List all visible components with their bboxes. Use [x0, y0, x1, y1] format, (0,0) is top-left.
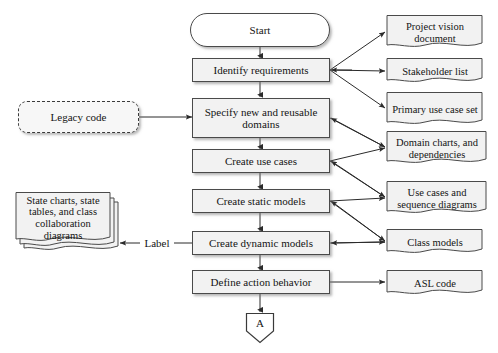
process-label: Create dynamic models	[193, 237, 329, 249]
process-specify-domains: Specify new and reusable domains	[192, 98, 330, 138]
artifact-label: Project vision document	[385, 21, 485, 45]
process-define-action-behavior: Define action behavior	[192, 270, 330, 294]
artifact-domain-charts: Domain charts, and dependencies	[385, 130, 489, 167]
flowchart-canvas: Start Identify requirements Specify new …	[0, 0, 498, 353]
artifact-label: Domain charts, and dependencies	[385, 137, 489, 161]
artifact-label: Primary use case set	[385, 104, 485, 116]
artifact-stakeholder-list: Stakeholder list	[385, 57, 485, 86]
artifact-use-cases-sequence-diagrams: Use cases and sequence diagrams	[385, 180, 489, 217]
artifact-label: ASL code	[385, 278, 485, 290]
artifact-class-models: Class models	[385, 228, 485, 257]
start-label: Start	[191, 24, 329, 36]
edge-domaincharts-to-specify	[331, 118, 385, 147]
artifact-project-vision-document: Project vision document	[385, 14, 485, 51]
offpage-connector-a: A	[245, 312, 275, 344]
artifact-label: Stakeholder list	[385, 66, 485, 78]
process-label: Specify new and reusable domains	[193, 106, 329, 131]
process-label: Create use cases	[193, 155, 329, 167]
edge-identify-to-projectvision	[330, 32, 385, 70]
process-label: Create static models	[193, 195, 329, 207]
artifact-label: Use cases and sequence diagrams	[385, 187, 489, 211]
process-label: Define action behavior	[193, 276, 329, 288]
input-label: Legacy code	[19, 111, 138, 123]
note-state-charts-tables-collaboration: State charts, state tables, and class co…	[14, 190, 120, 256]
process-create-use-cases: Create use cases	[192, 149, 330, 173]
note-label: State charts, state tables, and class co…	[14, 195, 120, 252]
edge-label-text: Label	[140, 234, 174, 252]
artifact-primary-use-case-set: Primary use case set	[385, 91, 485, 128]
edge-classmodels-to-static	[331, 201, 385, 241]
edge-static-to-sequence	[330, 198, 385, 201]
edge-identify-to-usecaseset	[330, 70, 385, 108]
input-legacy-code: Legacy code	[18, 101, 139, 133]
start-terminator: Start	[190, 13, 330, 47]
process-create-static-models: Create static models	[192, 189, 330, 213]
artifact-asl-code: ASL code	[385, 269, 485, 298]
process-create-dynamic-models: Create dynamic models	[192, 231, 330, 255]
process-identify-requirements: Identify requirements	[192, 58, 330, 82]
edge-sequence-to-usecases	[331, 161, 385, 197]
edge-classmodels-to-dynamic	[331, 242, 385, 243]
edge-usecases-to-domaincharts	[330, 148, 385, 161]
artifact-label: Class models	[385, 237, 485, 249]
connector-layer	[0, 0, 498, 353]
process-label: Identify requirements	[193, 64, 329, 76]
label-text: Label	[140, 237, 174, 249]
connector-label: A	[245, 317, 275, 338]
